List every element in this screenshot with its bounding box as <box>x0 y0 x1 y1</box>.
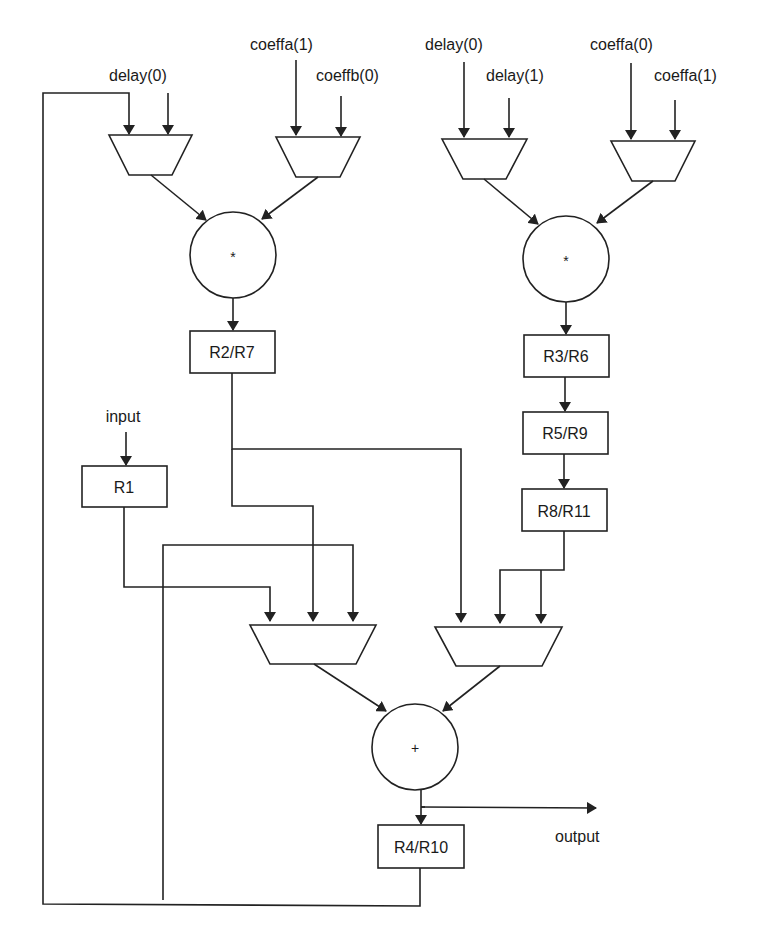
label-input: input <box>106 408 141 425</box>
wire-r2r7-mux6 <box>232 373 461 622</box>
mult-right-symbol: * <box>563 253 569 269</box>
wire-mux4-mult-right <box>597 181 653 223</box>
register-r5r9-label: R5/R9 <box>542 425 587 442</box>
wire-mux1-mult-left <box>151 175 206 220</box>
label-coeffa1-right: coeffa(1) <box>654 67 717 84</box>
wire-r8r11-mux6-a <box>500 531 564 623</box>
register-r8r11-label: R8/R11 <box>537 503 590 520</box>
mult-left-symbol: * <box>230 249 236 265</box>
wire-mux2-mult-left <box>262 177 318 219</box>
datapath-diagram: delay(0) coeffa(1) coeffb(0) delay(0) de… <box>0 0 773 938</box>
label-coeffa1-left: coeffa(1) <box>250 36 313 53</box>
register-r4r10-label: R4/R10 <box>394 839 448 856</box>
register-r1-label: R1 <box>114 479 135 496</box>
mux-6 <box>435 627 562 666</box>
register-r3r6-label: R3/R6 <box>543 348 588 365</box>
mux-4 <box>611 141 695 181</box>
wire-mux6-adder <box>443 666 500 711</box>
label-delay0-left: delay(0) <box>109 67 167 84</box>
feedback-wire-mux5 <box>163 545 353 900</box>
label-delay1: delay(1) <box>486 67 544 84</box>
mux-3 <box>442 139 527 179</box>
wire-mux5-adder <box>314 664 386 711</box>
wire-mux3-mult-right <box>484 179 538 224</box>
label-delay0-right: delay(0) <box>425 36 483 53</box>
feedback-return-wire <box>43 868 420 906</box>
register-r2r7-label: R2/R7 <box>209 344 254 361</box>
mux-5 <box>250 625 376 664</box>
mux-1 <box>109 135 192 175</box>
mux-2 <box>276 137 360 177</box>
wire-r2r7-mux5 <box>232 449 313 621</box>
arrow-output <box>421 807 596 808</box>
wire-r1-mux5 <box>124 507 270 621</box>
adder-symbol: + <box>411 740 419 756</box>
label-output: output <box>555 828 600 845</box>
label-coeffa0: coeffa(0) <box>590 36 653 53</box>
label-coeffb0: coeffb(0) <box>316 67 379 84</box>
